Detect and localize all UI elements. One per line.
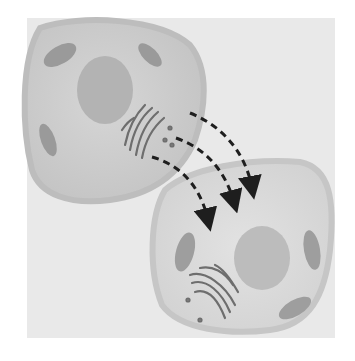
nucleus — [234, 226, 290, 290]
recipient-cell — [153, 161, 332, 332]
cell-transfer-diagram — [0, 0, 355, 361]
nucleus — [77, 56, 133, 124]
donor-cell — [25, 20, 204, 201]
